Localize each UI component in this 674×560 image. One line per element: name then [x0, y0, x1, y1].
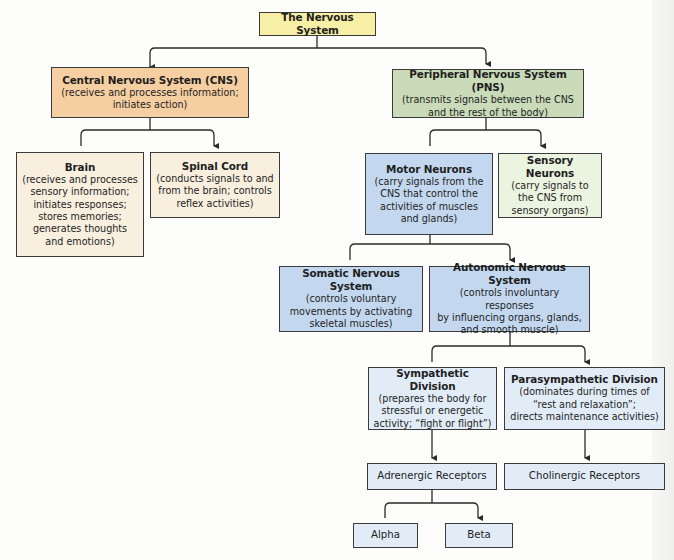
node-cholinergic-receptors: Cholinergic Receptors	[504, 463, 665, 490]
node-beta: Beta	[445, 523, 513, 548]
node-title: Parasympathetic Division	[511, 373, 658, 386]
node-title: Somatic Nervous System	[284, 267, 418, 293]
node-description: (carry signals to the CNS from sensory o…	[511, 180, 588, 217]
node-peripheral-nervous-system: Peripheral Nervous System (PNS) (transmi…	[392, 69, 584, 118]
node-description: (conducts signals to and from the brain;…	[156, 173, 273, 210]
node-somatic-nervous-system: Somatic Nervous System (controls volunta…	[279, 266, 423, 332]
node-label: Adrenergic Receptors	[377, 470, 486, 482]
node-label: Cholinergic Receptors	[529, 470, 640, 482]
node-description: (receives and processes sensory informat…	[22, 174, 138, 248]
node-nervous-system: The Nervous System	[259, 12, 376, 36]
node-label: Beta	[467, 529, 491, 541]
node-title: Sensory Neurons	[503, 154, 597, 180]
node-motor-neurons: Motor Neurons (carry signals from the CN…	[365, 153, 493, 235]
node-alpha: Alpha	[353, 523, 418, 548]
node-description: (carry signals from the CNS that control…	[375, 176, 484, 226]
node-central-nervous-system: Central Nervous System (CNS) (receives a…	[51, 67, 249, 118]
node-description: (prepares the body for stressful or ener…	[374, 393, 492, 430]
node-sympathetic-division: Sympathetic Division (prepares the body …	[368, 367, 497, 430]
node-title: Autonomic Nervous System	[434, 261, 585, 287]
node-brain: Brain (receives and processes sensory in…	[16, 152, 144, 257]
node-sensory-neurons: Sensory Neurons (carry signals to the CN…	[498, 153, 602, 218]
node-title: Brain	[65, 161, 96, 174]
node-description: (dominates during times of “rest and rel…	[510, 386, 658, 423]
node-description: (controls voluntary movements by activat…	[290, 293, 412, 330]
node-parasympathetic-division: Parasympathetic Division (dominates duri…	[504, 367, 665, 430]
node-spinal-cord: Spinal Cord (conducts signals to and fro…	[150, 152, 280, 218]
node-description: (controls involuntary responses by influ…	[434, 287, 585, 337]
node-title: Sympathetic Division	[373, 367, 492, 393]
node-title: Central Nervous System (CNS)	[62, 74, 238, 87]
node-label: Alpha	[371, 529, 400, 541]
node-description: (transmits signals between the CNS and t…	[402, 94, 574, 119]
node-autonomic-nervous-system: Autonomic Nervous System (controls invol…	[429, 266, 590, 332]
node-title: The Nervous System	[264, 11, 371, 37]
node-title: Spinal Cord	[182, 160, 248, 173]
node-title: Peripheral Nervous System (PNS)	[397, 68, 579, 94]
node-description: (receives and processes information; ini…	[61, 87, 238, 112]
node-title: Motor Neurons	[386, 163, 472, 176]
node-adrenergic-receptors: Adrenergic Receptors	[367, 463, 497, 490]
